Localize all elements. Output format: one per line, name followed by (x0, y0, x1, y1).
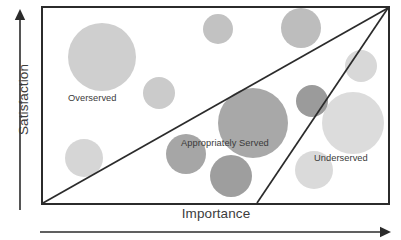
bubble-top-center (203, 14, 233, 44)
x-axis: Importance (41, 206, 391, 240)
y-axis: Satisfaction (0, 0, 40, 212)
y-axis-label: Satisfaction (16, 30, 31, 170)
plot-area: Overserved Appropriately Served Underser… (41, 6, 390, 205)
bubble-chart-figure: Satisfaction (0, 0, 401, 240)
bubble-top-right (281, 8, 321, 48)
bubble-appropriate-lower-mid (210, 155, 252, 197)
bubble-overserved-large (68, 23, 136, 91)
region-label-overserved: Overserved (68, 94, 117, 103)
region-label-appropriately-served: Appropriately Served (181, 139, 269, 148)
bubble-overserved-mid (143, 77, 175, 109)
x-axis-label: Importance (41, 206, 391, 221)
plot-canvas (41, 6, 390, 205)
bubble-appropriate-small-right (296, 85, 328, 117)
region-label-underserved: Underserved (314, 154, 368, 163)
arrow-right-icon (40, 226, 392, 238)
bubble-underserved-large (322, 92, 384, 154)
bubble-overserved-lower-left (65, 139, 103, 177)
